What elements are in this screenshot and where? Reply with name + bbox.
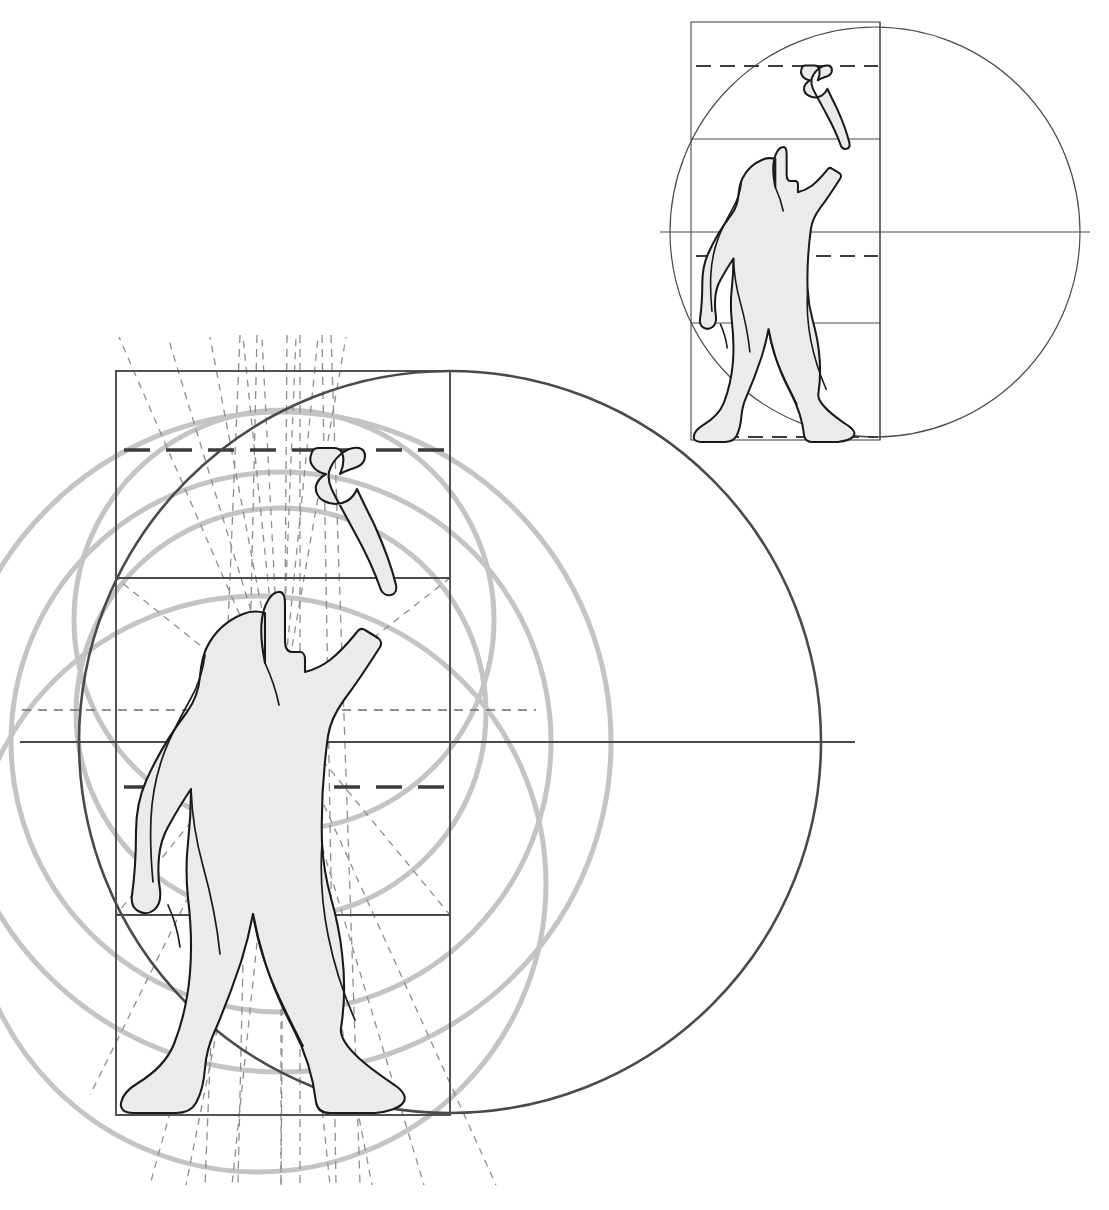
- main-panel: [0, 335, 855, 1185]
- proportion-diagram-svg: Canon of Human Proportions — Geometric C…: [0, 0, 1109, 1210]
- diagram-canvas: Canon of Human Proportions — Geometric C…: [0, 0, 1109, 1210]
- figure-arm-fist-main: [310, 448, 396, 596]
- figure-arm-fist-inset: [801, 65, 850, 148]
- figure-body-inset: [694, 147, 855, 442]
- inset-panel: [660, 22, 1090, 442]
- figure-body-main: [121, 592, 405, 1113]
- human-figure-inset: [694, 65, 855, 441]
